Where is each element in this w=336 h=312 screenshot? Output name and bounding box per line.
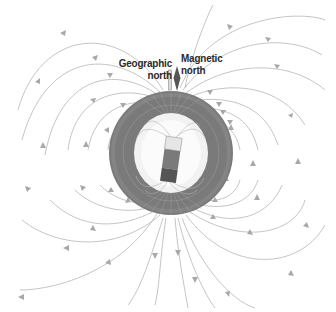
- magnet-body: [162, 149, 180, 170]
- magnetic-north-label-line1: Magnetic: [181, 52, 222, 64]
- geographic-north-label: Geographic north: [117, 57, 172, 81]
- magnetic-field-diagram: [0, 0, 336, 312]
- magnetic-north-label: Magnetic north: [181, 52, 222, 76]
- magnet-south-end: [160, 168, 178, 183]
- geographic-north-label-line1: Geographic: [117, 57, 172, 69]
- magnetic-north-needle-icon: [174, 66, 181, 91]
- geographic-north-label-line2: north: [117, 69, 172, 81]
- magnetic-north-label-line2: north: [181, 64, 222, 76]
- magnet-north-end: [164, 136, 182, 151]
